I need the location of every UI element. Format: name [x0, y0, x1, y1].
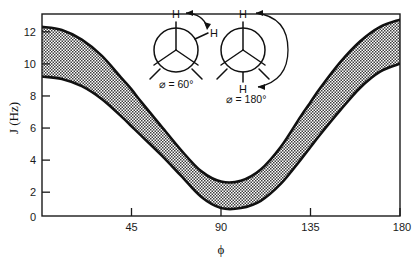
y-tick-label-8: 8 [30, 90, 36, 102]
y-tick-label-10: 10 [24, 58, 36, 70]
newman-180-top-atom-label: H [239, 8, 247, 20]
newman-180-rotation-arrow [256, 13, 288, 87]
newman-60-rear-bond-upright [195, 33, 208, 39]
x-axis-title: ϕ [218, 242, 225, 257]
newman-projection-60: H H ⌀ = 60° [150, 8, 218, 90]
newman-60-arrow-tail-head [186, 10, 193, 16]
y-tick-label-12: 12 [24, 26, 36, 38]
newman-60-front-atom-label: H [210, 27, 218, 39]
newman-60-caption: ⌀ = 60° [159, 78, 194, 90]
newman-projection-180: H H ⌀ = 180° [217, 8, 288, 105]
y-tick-label-4: 4 [30, 154, 36, 166]
newman-60-top-atom-label: H [172, 8, 180, 20]
newman-180-arrowhead-bottom [258, 84, 265, 90]
x-tick-label-135: 135 [301, 221, 319, 233]
chart-canvas: 12 10 8 6 4 2 0 45 90 135 180 J (Hz) ϕ [0, 0, 418, 262]
newman-60-front-bond-left [154, 50, 176, 65]
x-tick-label-90: 90 [215, 221, 227, 233]
newman-180-rear-bond-lowleft [217, 69, 227, 79]
newman-180-rear-bond-lowright [259, 69, 269, 79]
y-tick-label-6: 6 [30, 122, 36, 134]
x-tick-label-45: 45 [125, 221, 137, 233]
x-axis-ticks [132, 208, 401, 216]
newman-60-rotation-arrow [186, 13, 207, 27]
y-axis-title: J (Hz) [6, 102, 21, 134]
newman-60-rear-bond-lowright [192, 69, 202, 79]
karplus-curve-figure: 12 10 8 6 4 2 0 45 90 135 180 J (Hz) ϕ [0, 0, 418, 262]
newman-180-caption: ⌀ = 180° [226, 93, 267, 105]
x-tick-label-180: 180 [393, 221, 411, 233]
y-tick-label-2: 2 [30, 186, 36, 198]
newman-60-front-bond-right [176, 50, 198, 65]
y-tick-label-0: 0 [30, 211, 36, 223]
newman-180-front-bond-left [221, 50, 243, 65]
newman-180-front-bond-right [243, 50, 265, 65]
newman-180-arrowhead-top [256, 10, 263, 16]
